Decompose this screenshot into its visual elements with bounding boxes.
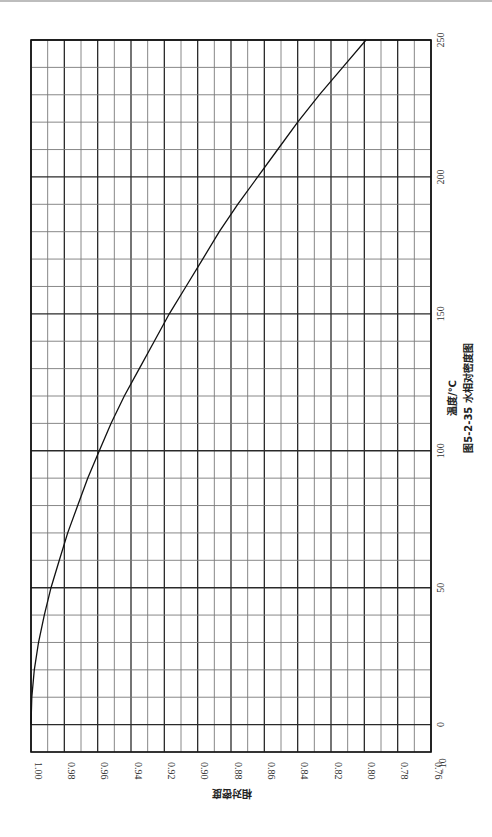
temperature-tick: 250 — [435, 33, 446, 48]
density-tick: 1.00 — [33, 762, 44, 780]
density-tick: 0.92 — [166, 762, 177, 780]
temperature-tick: 50 — [435, 583, 446, 593]
water-relative-density-chart: 1.000.980.960.940.920.900.880.860.840.82… — [0, 0, 492, 837]
temperature-tick: 200 — [435, 169, 446, 184]
density-tick: 0.86 — [266, 762, 277, 780]
density-tick: 0.98 — [66, 762, 77, 780]
density-tick: 0.94 — [133, 762, 144, 780]
density-tick: 0.90 — [199, 762, 210, 780]
x-axis-title: 温度/℃ — [446, 380, 458, 416]
temperature-tick: 150 — [435, 306, 446, 321]
temperature-tick: 0 — [435, 722, 446, 727]
density-tick: 0.82 — [333, 762, 344, 780]
density-tick: 0.88 — [233, 762, 244, 780]
grid-lines — [31, 40, 431, 752]
density-tick: 0.78 — [399, 762, 410, 780]
temperature-tick: −10 — [437, 758, 448, 774]
y-axis-title: 相对密度 — [211, 788, 252, 800]
density-tick-labels: 1.000.980.960.940.920.900.880.860.840.82… — [33, 762, 444, 780]
density-tick: 0.80 — [366, 762, 377, 780]
density-tick: 0.96 — [99, 762, 110, 780]
figure-caption: 图5-2-35 水相对密度图 — [462, 343, 474, 453]
temperature-tick: 100 — [435, 443, 446, 458]
density-tick: 0.84 — [299, 762, 310, 780]
